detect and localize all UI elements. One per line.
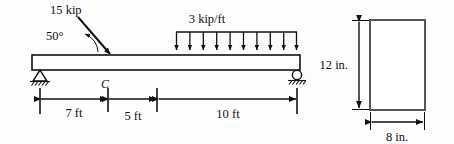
- dimension-5ft: 5 ft: [109, 99, 156, 123]
- distributed-load-arrows: [177, 32, 297, 50]
- pin-support-left: [30, 70, 50, 86]
- figure-canvas: 15 kip 50° 3 kip/ft: [0, 0, 454, 144]
- beam-assembly: 15 kip 50° 3 kip/ft: [30, 3, 306, 123]
- dimension-7ft: 7 ft: [41, 99, 107, 120]
- dim-label-5ft: 5 ft: [124, 109, 142, 123]
- point-load-arrow: [78, 17, 110, 54]
- dim-label-7ft: 7 ft: [65, 106, 83, 120]
- dimension-10ft: 10 ft: [159, 99, 296, 121]
- cross-section-height-label: 12 in.: [320, 58, 348, 72]
- point-load-15kip: 15 kip 50°: [46, 3, 110, 54]
- cross-section-width-label: 8 in.: [386, 130, 408, 144]
- dim-label-10ft: 10 ft: [216, 107, 240, 121]
- beam-member: [32, 55, 300, 70]
- distributed-load-label: 3 kip/ft: [189, 12, 226, 26]
- dimension-width: 8 in.: [371, 112, 425, 144]
- roller-circle: [292, 70, 301, 79]
- point-load-label: 15 kip: [50, 3, 82, 17]
- dimension-height: 12 in.: [320, 21, 369, 110]
- distributed-load-3kipft: 3 kip/ft: [176, 12, 297, 50]
- cross-section-rect: [370, 20, 425, 110]
- pin-triangle: [33, 70, 47, 81]
- cross-section-assembly: 12 in. 8 in.: [320, 20, 425, 144]
- pin-hatching: [32, 82, 49, 86]
- roller-hatching: [289, 81, 306, 85]
- point-load-angle-label: 50°: [46, 29, 64, 43]
- dimension-chain: 7 ft 5 ft 10 ft: [40, 88, 297, 123]
- roller-support-right: [288, 70, 306, 84]
- beam-figure: 15 kip 50° 3 kip/ft: [0, 0, 454, 144]
